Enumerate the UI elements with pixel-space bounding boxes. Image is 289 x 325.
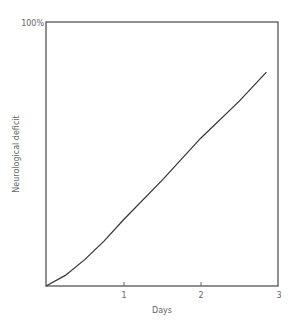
y-axis-label: Neurological deficit	[12, 115, 21, 192]
data-line	[46, 72, 266, 286]
x-tick-label-3: 3	[276, 291, 281, 300]
x-tick-label-2: 2	[198, 291, 203, 300]
plot-frame	[46, 22, 278, 286]
x-axis-label: Days	[152, 306, 172, 315]
chart: 100% 1 2 3 Days Neurological deficit	[0, 0, 289, 325]
x-tick-label-1: 1	[121, 291, 126, 300]
y-top-label: 100%	[21, 19, 44, 28]
